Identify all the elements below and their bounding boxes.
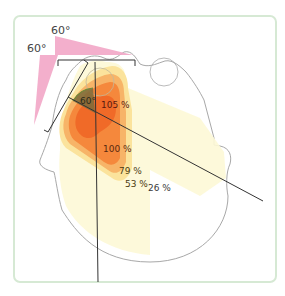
isodose-label-79: 79 % [119,166,142,176]
hinge-angle-label: 60° [80,96,96,106]
isodose-label-26: 26 % [148,183,171,193]
isodose-diagram: 60° 60° 60° 105 % 100 % 79 % 53 % 26 % [0,0,285,296]
wedge-top-label: 60° [51,24,71,37]
isodose-label-105: 105 % [101,100,130,110]
isodose-label-100: 100 % [103,144,132,154]
wedge-left-label: 60° [27,42,47,55]
isodose-label-53: 53 % [125,179,148,189]
